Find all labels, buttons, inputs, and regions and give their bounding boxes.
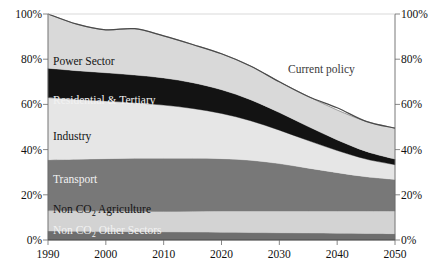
annotation-label-current-policy: Current policy: [288, 63, 355, 76]
band-label-power-sector: Power Sector: [53, 55, 115, 67]
non-co2-other-tail: Other Sectors: [96, 224, 162, 236]
x-tick-2040: 2040: [326, 248, 349, 260]
non-co2-agri-tail: Agriculture: [96, 203, 151, 216]
left-tick-0: 0%: [27, 234, 43, 246]
x-tick-2000: 2000: [94, 248, 117, 260]
right-tick-20: 20%: [401, 189, 423, 201]
x-tick-1990: 1990: [37, 248, 60, 260]
left-tick-60: 60%: [21, 98, 43, 110]
band-label-industry: Industry: [53, 130, 92, 143]
non-co2-agri-head: Non CO: [53, 203, 92, 215]
left-tick-100: 100%: [15, 8, 42, 20]
chart-container: 100%80%60%40%20%0% 100%80%60%40%20%0% 19…: [0, 0, 442, 270]
left-tick-80: 80%: [21, 53, 43, 65]
right-tick-0: 0%: [401, 234, 417, 246]
right-tick-80: 80%: [401, 53, 423, 65]
x-tick-2020: 2020: [210, 248, 233, 260]
x-tick-2050: 2050: [384, 248, 407, 260]
x-tick-2010: 2010: [152, 248, 175, 260]
non-co2-other-head: Non CO: [53, 224, 92, 236]
right-tick-60: 60%: [401, 98, 423, 110]
right-tick-100: 100%: [401, 8, 428, 20]
band-label-transport: Transport: [53, 173, 98, 186]
stacked-area-chart: 100%80%60%40%20%0% 100%80%60%40%20%0% 19…: [0, 0, 442, 270]
x-tick-2030: 2030: [268, 248, 291, 260]
right-tick-40: 40%: [401, 144, 423, 156]
band-label-residential-tertiary: Residential & Tertiary: [53, 94, 156, 107]
left-tick-40: 40%: [21, 144, 43, 156]
left-tick-20: 20%: [21, 189, 43, 201]
